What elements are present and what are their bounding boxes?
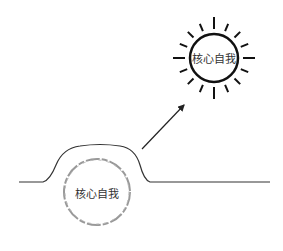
transformation-arrow bbox=[142, 105, 184, 149]
diagram-canvas: 核心自我 核心自我 bbox=[0, 0, 283, 251]
diagram-svg bbox=[0, 0, 283, 251]
ground-mound-line bbox=[19, 145, 270, 183]
sun-label: 核心自我 bbox=[192, 50, 236, 66]
buried-self-label: 核心自我 bbox=[75, 185, 119, 201]
